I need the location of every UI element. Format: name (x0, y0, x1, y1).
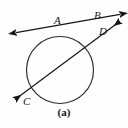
circle-shape (27, 37, 94, 104)
point-label-b: B (94, 10, 101, 21)
point-label-a: A (54, 15, 61, 26)
geometry-figure: A B D C (a) (0, 0, 128, 128)
point-label-d: D (99, 26, 107, 37)
figure-caption: (a) (0, 106, 128, 118)
